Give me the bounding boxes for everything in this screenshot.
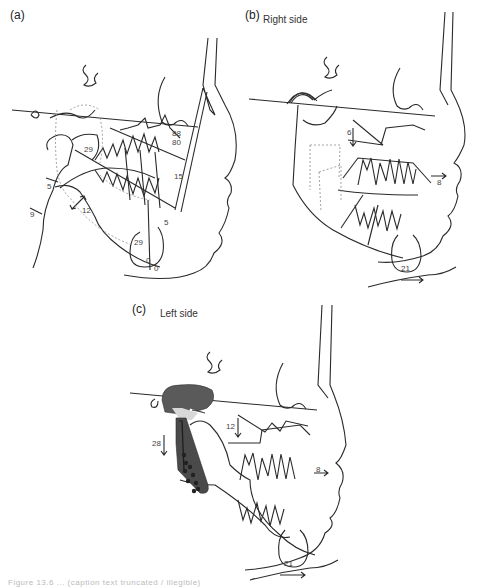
measurement-5-left: 5 <box>47 182 51 191</box>
panel-c: (c) Left side <box>100 295 400 580</box>
measurement-29-upper: 29 <box>84 145 93 154</box>
panel-c-cephalometric-tracing <box>100 295 400 580</box>
measurement-12: 12 <box>226 422 235 431</box>
measurement-5-right: 5 <box>164 218 168 227</box>
measurement-29-lower: 29 <box>134 238 143 247</box>
panel-a-cephalometric-tracing <box>0 0 243 290</box>
measurement-0-b: 0 <box>154 264 158 273</box>
measurement-80: 80 <box>172 138 181 147</box>
measurement-8: 8 <box>316 465 320 474</box>
measurement-28: 28 <box>152 439 161 448</box>
measurement-21: 21 <box>284 559 293 568</box>
figure-caption: Figure 13.6 ... (caption text truncated … <box>8 578 478 588</box>
measurement-0-a: 0 <box>146 256 150 265</box>
measurement-21: 21 <box>401 264 410 273</box>
measurement-8: 8 <box>437 178 441 187</box>
panel-a: (a) <box>0 0 243 290</box>
panel-b-cephalometric-tracing <box>243 0 486 290</box>
measurement-88: 88 <box>172 129 181 138</box>
distraction-device-icon <box>162 385 214 494</box>
measurement-15: 15 <box>174 172 183 181</box>
measurement-12: 12 <box>82 206 91 215</box>
caption-text: Figure 13.6 ... (caption text truncated … <box>8 578 201 587</box>
measurement-6: 6 <box>347 128 351 137</box>
measurement-9: 9 <box>30 210 34 219</box>
panel-b: (b) Right side <box>243 0 486 290</box>
